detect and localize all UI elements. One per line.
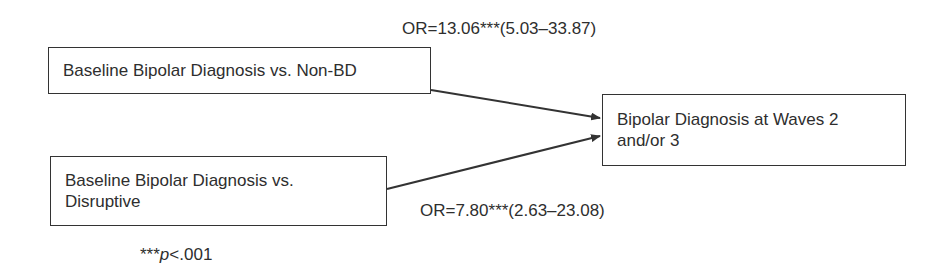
node-outcome-bipolar-waves: Bipolar Diagnosis at Waves 2 and/or 3 [602, 94, 906, 166]
edge-label-or-disruptive: OR=7.80***(2.63–23.08) [420, 201, 605, 221]
node-label-line2: Disruptive [65, 191, 294, 212]
footnote-threshold: <.001 [169, 245, 212, 264]
arrow-nonbd-to-outcome [431, 90, 600, 118]
node-label-line1: Bipolar Diagnosis at Waves 2 [617, 109, 838, 130]
edge-label-or-nonbd: OR=13.06***(5.03–33.87) [402, 19, 596, 39]
node-baseline-vs-nonbd: Baseline Bipolar Diagnosis vs. Non-BD [48, 47, 431, 94]
significance-footnote: ***p<.001 [140, 245, 212, 265]
node-label-line1: Baseline Bipolar Diagnosis vs. [65, 170, 294, 191]
footnote-stars: *** [140, 245, 160, 264]
arrow-disruptive-to-outcome [387, 136, 600, 189]
node-label: Baseline Bipolar Diagnosis vs. Non-BD [63, 60, 357, 81]
node-label-line2: and/or 3 [617, 130, 838, 151]
node-baseline-vs-disruptive: Baseline Bipolar Diagnosis vs. Disruptiv… [50, 156, 387, 226]
footnote-p-symbol: p [160, 245, 169, 264]
